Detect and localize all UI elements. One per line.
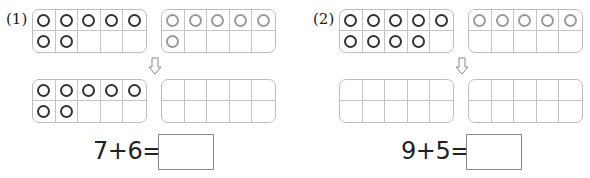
frame-cell [207, 80, 230, 101]
frame-cell [162, 80, 185, 101]
counter-circle-icon [344, 35, 357, 48]
counter-circle-icon [37, 105, 50, 118]
frame-cell [123, 31, 146, 52]
frame-cell [230, 101, 253, 122]
ten-frame-top-right [161, 9, 276, 53]
counter-circle-icon [189, 14, 202, 27]
counter-circle-icon [367, 14, 380, 27]
frame-cell [514, 80, 537, 101]
frame-cell [514, 10, 537, 31]
counter-circle-icon [518, 14, 531, 27]
frame-cell [101, 10, 124, 31]
frame-cell [78, 80, 101, 101]
frame-cell [207, 101, 230, 122]
answer-box[interactable] [158, 134, 214, 170]
frame-cell [514, 31, 537, 52]
counter-circle-icon [60, 14, 73, 27]
frame-cell [408, 80, 431, 101]
ten-frame-bottom-right [468, 79, 583, 123]
frame-cell [252, 10, 275, 31]
counter-circle-icon [60, 84, 73, 97]
counter-circle-icon [564, 14, 577, 27]
frame-cell [185, 10, 208, 31]
frame-cell [123, 10, 146, 31]
frame-cell [537, 31, 560, 52]
frame-cell [408, 10, 431, 31]
frame-cell [340, 80, 363, 101]
frame-cell [78, 10, 101, 31]
counter-circle-icon [37, 35, 50, 48]
frame-cell [363, 101, 386, 122]
frame-cell [185, 31, 208, 52]
frame-cell [123, 80, 146, 101]
counter-circle-icon [389, 35, 402, 48]
ten-frame-top-left [32, 9, 147, 53]
counter-circle-icon [541, 14, 554, 27]
frame-cell [101, 80, 124, 101]
frame-cell [56, 31, 79, 52]
frame-cell [56, 10, 79, 31]
counter-circle-icon [496, 14, 509, 27]
frame-cell [33, 10, 56, 31]
frame-cell [101, 101, 124, 122]
frame-cell [33, 80, 56, 101]
frame-cell [492, 101, 515, 122]
counter-circle-icon [60, 105, 73, 118]
counter-circle-icon [105, 84, 118, 97]
ten-frame-bottom-left [339, 79, 454, 123]
frame-cell [430, 10, 453, 31]
ten-frame-bottom-right [161, 79, 276, 123]
frame-cell [33, 101, 56, 122]
frame-cell [162, 31, 185, 52]
frame-cell [469, 101, 492, 122]
frame-cell [101, 31, 124, 52]
frame-cell [185, 101, 208, 122]
frame-cell [385, 80, 408, 101]
counter-circle-icon [344, 14, 357, 27]
frame-cell [492, 80, 515, 101]
ten-frame-bottom-left [32, 79, 147, 123]
frame-cell [559, 80, 582, 101]
frame-cell [340, 10, 363, 31]
frame-cell [78, 101, 101, 122]
frame-cell [537, 80, 560, 101]
frame-cell [559, 101, 582, 122]
counter-circle-icon [435, 14, 448, 27]
frame-cell [123, 101, 146, 122]
frame-cell [469, 31, 492, 52]
down-arrow-icon [455, 57, 469, 75]
frame-cell [185, 80, 208, 101]
frame-cell [385, 101, 408, 122]
frame-cell [340, 31, 363, 52]
frame-cell [340, 101, 363, 122]
frame-cell [430, 31, 453, 52]
answer-box[interactable] [466, 134, 522, 170]
counter-circle-icon [128, 84, 141, 97]
frame-cell [162, 10, 185, 31]
frame-cell [514, 101, 537, 122]
counter-circle-icon [166, 35, 179, 48]
frame-cell [207, 31, 230, 52]
frame-cell [385, 10, 408, 31]
counter-circle-icon [37, 14, 50, 27]
counter-circle-icon [473, 14, 486, 27]
frame-cell [363, 80, 386, 101]
counter-circle-icon [257, 14, 270, 27]
frame-cell [56, 80, 79, 101]
frame-cell [385, 31, 408, 52]
equation-text: 7+6= [93, 137, 162, 165]
frame-cell [230, 80, 253, 101]
counter-circle-icon [128, 14, 141, 27]
counter-circle-icon [60, 35, 73, 48]
frame-cell [469, 10, 492, 31]
counter-circle-icon [211, 14, 224, 27]
down-arrow-icon [148, 57, 162, 75]
counter-circle-icon [389, 14, 402, 27]
frame-cell [252, 101, 275, 122]
counter-circle-icon [82, 14, 95, 27]
counter-circle-icon [367, 35, 380, 48]
frame-cell [230, 10, 253, 31]
ten-frame-top-left [339, 9, 454, 53]
problem-label: (2) [313, 10, 334, 28]
counter-circle-icon [234, 14, 247, 27]
